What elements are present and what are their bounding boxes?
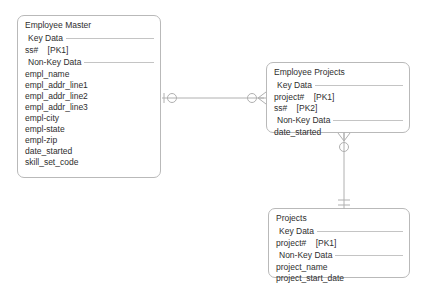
- entity-employee-master[interactable]: Employee Master Key Data ss# [PK1] Non-K…: [17, 15, 161, 178]
- attribute-name: project#: [274, 92, 304, 102]
- key-data-label: Key Data: [279, 226, 317, 237]
- attribute-row: project_start_date: [269, 273, 409, 284]
- attribute-row: date_started: [18, 146, 160, 157]
- er-diagram-canvas: Employee Master Key Data ss# [PK1] Non-K…: [0, 0, 430, 296]
- section-rule: [317, 231, 403, 232]
- non-key-data-section-header: Non-Key Data: [269, 249, 409, 262]
- section-rule: [315, 85, 403, 86]
- entity-employee-projects[interactable]: Employee Projects Key Data project# [PK1…: [266, 62, 410, 133]
- key-data-label: Key Data: [277, 80, 315, 91]
- non-key-data-label: Non-Key Data: [279, 250, 335, 261]
- attribute-row: empl-state: [18, 124, 160, 135]
- attribute-key-tag: [PK1]: [307, 92, 335, 102]
- attribute-name: ss#: [25, 45, 38, 55]
- section-rule: [335, 255, 403, 256]
- attribute-name: project#: [276, 238, 306, 248]
- attribute-row: project# [PK1]: [269, 238, 409, 249]
- key-data-label: Key Data: [28, 33, 66, 44]
- cardinality-crows-foot-many: [338, 133, 350, 141]
- attribute-row: empl_addr_line2: [18, 91, 160, 102]
- cardinality-crows-foot-many: [258, 92, 266, 104]
- attribute-key-tag: [PK2]: [290, 103, 318, 113]
- attribute-row: project# [PK1]: [267, 92, 409, 103]
- attribute-name: ss#: [274, 103, 287, 113]
- key-data-section-header: Key Data: [267, 79, 409, 92]
- attribute-row: ss# [PK1]: [18, 45, 160, 56]
- entity-projects[interactable]: Projects Key Data project# [PK1] Non-Key…: [268, 208, 410, 278]
- key-data-section-header: Key Data: [269, 225, 409, 238]
- attribute-key-tag: [PK1]: [41, 45, 69, 55]
- attribute-row: project_name: [269, 262, 409, 273]
- attribute-key-tag: [PK1]: [309, 238, 337, 248]
- attribute-row: empl_name: [18, 69, 160, 80]
- non-key-data-section-header: Non-Key Data: [18, 56, 160, 69]
- attribute-row: ss# [PK2]: [267, 103, 409, 114]
- section-rule: [333, 120, 403, 121]
- attribute-row: empl_addr_line3: [18, 102, 160, 113]
- section-rule: [84, 62, 154, 63]
- entity-title: Projects: [269, 212, 409, 225]
- entity-title: Employee Master: [18, 19, 160, 32]
- entity-title: Employee Projects: [267, 66, 409, 79]
- attribute-row: skill_set_code: [18, 157, 160, 168]
- section-rule: [66, 38, 154, 39]
- non-key-data-label: Non-Key Data: [28, 57, 84, 68]
- key-data-section-header: Key Data: [18, 32, 160, 45]
- non-key-data-label: Non-Key Data: [277, 115, 333, 126]
- attribute-row: empl_addr_line1: [18, 80, 160, 91]
- attribute-row: empl-city: [18, 113, 160, 124]
- attribute-row: empl-zip: [18, 135, 160, 146]
- relationship-employee-master-to-employee-projects[interactable]: [160, 84, 270, 114]
- non-key-data-section-header: Non-Key Data: [267, 114, 409, 127]
- relationship-employee-projects-to-projects[interactable]: [330, 130, 360, 212]
